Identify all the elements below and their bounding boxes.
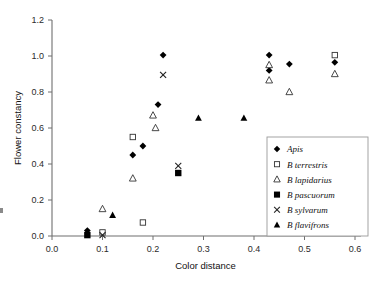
data-point [160,72,166,78]
data-point [140,220,145,225]
data-point [129,175,136,181]
y-tick-label: 0.8 [31,87,44,97]
x-tick-label: 0.1 [96,244,109,254]
data-point [331,70,338,76]
marker-open-square [274,162,279,167]
data-point [130,134,135,139]
data-point [129,152,136,159]
data-point [266,77,273,83]
y-tick-label: 0.6 [31,123,44,133]
data-point [286,88,293,94]
legend-item-label: Apis [286,144,303,154]
data-point [84,232,90,238]
legend: ApisB terrestrisB lapidariusB pascuorumB… [267,137,368,236]
data-point [100,230,105,235]
chart-canvas: 0.00.20.40.60.81.01.20.00.10.20.30.40.50… [0,0,373,284]
data-point [160,52,167,59]
legend-item-label: B flavifrons [287,220,329,230]
data-point [175,170,181,176]
y-axis-title: Flower constancy [12,91,23,165]
legend-item-label: B terrestris [287,160,328,170]
legend-item-label: B pascuorum [287,190,335,200]
y-tick-label: 1.0 [31,51,44,61]
data-point [266,61,273,67]
x-tick-label: 0.3 [197,244,210,254]
page-edge-artifact [0,208,3,213]
data-point [332,52,337,57]
data-point [331,59,338,66]
data-point [195,114,202,120]
legend-item-label: B sylvarum [287,205,328,215]
x-tick-label: 0.2 [147,244,160,254]
data-point [240,114,247,120]
x-tick-label: 0.0 [46,244,59,254]
data-point [109,212,116,218]
x-tick-label: 0.4 [248,244,261,254]
data-point [155,101,162,108]
scatter-chart: 0.00.20.40.60.81.01.20.00.10.20.30.40.50… [0,0,373,284]
data-point [175,163,181,169]
data-point [266,52,273,59]
x-tick-label: 0.5 [298,244,311,254]
data-point [99,205,106,211]
y-tick-label: 1.2 [31,15,44,25]
y-tick-label: 0.2 [31,195,44,205]
y-tick-label: 0.0 [31,231,44,241]
data-point [150,112,157,118]
y-tick-label: 0.4 [31,159,44,169]
data-point [140,143,147,150]
svg-text:Flower constancy: Flower constancy [12,91,23,165]
legend-item-label: B lapidarius [287,175,332,185]
data-point [152,124,159,130]
marker-filled-square [274,192,280,198]
x-axis-title: Color distance [175,260,236,271]
data-point [286,61,293,68]
x-tick-label: 0.6 [349,244,362,254]
